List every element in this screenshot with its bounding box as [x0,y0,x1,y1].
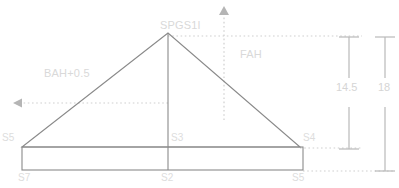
node-label-left-eave: S5 [2,133,14,143]
arrowhead-left-icon [13,99,22,108]
diagram-canvas: SPGS1l FAH BAH+0.5 14.5 18 S5 S3 S4 S7 S… [0,0,399,188]
base-rectangle-outline [22,147,303,170]
node-label-left-base: S7 [18,173,30,183]
dimension-value-18: 18 [378,82,390,93]
apex-label: SPGS1l [160,20,200,31]
front-height-label: FAH [240,49,262,60]
back-height-label: BAH+0.5 [44,68,90,79]
node-label-center-eave: S3 [171,133,183,143]
dimension-value-14-5: 14.5 [336,82,357,93]
node-label-right-base: S5 [292,173,304,183]
node-label-right-eave: S4 [303,133,315,143]
dimension-line-14-5 [339,37,359,149]
dimension-line-18 [375,37,395,171]
node-label-center-base: S2 [161,173,173,183]
arrowhead-up-icon [219,6,229,15]
